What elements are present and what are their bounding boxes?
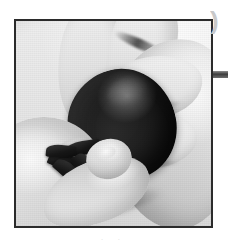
strawberry-hulling-photo [16,21,211,226]
corner-glyph: ) [210,8,226,34]
right-edge-bar [213,71,228,78]
photo-frame [14,19,213,228]
page-canvas: ) · · [0,0,228,247]
caption: · · [14,234,213,245]
